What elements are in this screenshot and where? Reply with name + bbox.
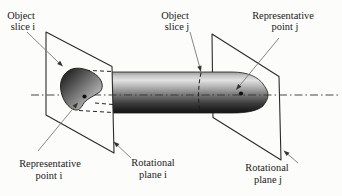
object-slice-i-label-line2: slice i	[11, 21, 36, 32]
representative-point-i-label-line1: Representative	[19, 158, 81, 169]
rotational-plane-j-label-line1: Rotational	[245, 162, 288, 173]
representative-point-j-dot	[239, 91, 243, 95]
object-slice-j-label: Object slice j	[161, 10, 189, 32]
rotational-plane-i-leader	[114, 142, 132, 159]
object-slice-j-leader	[190, 32, 202, 72]
rotational-planes-diagram: Object slice i Object slice j Representa…	[0, 0, 342, 196]
rotational-plane-i-label-line2: plane i	[139, 169, 167, 180]
arrowhead-icon	[197, 66, 201, 72]
object-slice-j-label-line1: Object	[161, 10, 189, 21]
object-body	[108, 72, 268, 113]
object-slice-j-label-line2: slice j	[165, 21, 190, 32]
representative-point-j-label-line1: Representative	[252, 10, 314, 21]
object-slice-i-label-line1: Object	[7, 10, 35, 21]
representative-point-i-label: Representative point i	[19, 158, 81, 181]
rotational-plane-j-label: Rotational plane j	[245, 162, 288, 185]
representative-point-j-label: Representative point j	[252, 10, 314, 32]
rotational-plane-i-label-line1: Rotational	[131, 157, 174, 168]
representative-point-i-label-line2: point i	[36, 170, 63, 181]
rotational-plane-j-label-line2: plane j	[254, 174, 282, 185]
representative-point-i-dot	[82, 94, 86, 98]
representative-point-j-label-line2: point j	[272, 21, 299, 32]
object-slice-i-label: Object slice i	[7, 10, 35, 32]
rotational-plane-i-label: Rotational plane i	[131, 157, 174, 180]
